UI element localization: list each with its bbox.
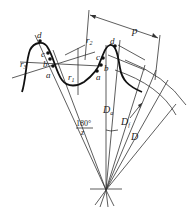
label-pitch: p bbox=[131, 24, 138, 36]
label-d-left: d bbox=[37, 30, 42, 40]
label-a-right: a bbox=[96, 72, 101, 82]
label-D: D bbox=[130, 131, 139, 142]
pitch-arc bbox=[125, 60, 186, 105]
label-r2: r2 bbox=[86, 35, 93, 46]
gear-tooth-diagram: p d c b a d c b a r1 r2 r3 180° z Da Df … bbox=[0, 0, 192, 212]
construction-lines bbox=[12, 45, 145, 95]
label-angle-numerator: 180° bbox=[76, 119, 91, 128]
label-d-right: d bbox=[110, 36, 115, 46]
label-r1: r1 bbox=[68, 72, 75, 83]
label-c-right: c bbox=[96, 52, 100, 62]
label-c-left: c bbox=[41, 49, 45, 59]
label-b-left: b bbox=[43, 59, 48, 69]
label-b-right: b bbox=[104, 63, 109, 73]
label-a-left: a bbox=[46, 70, 51, 80]
tooth-profile bbox=[22, 43, 142, 92]
label-r3: r3 bbox=[20, 59, 27, 70]
radial-lines bbox=[35, 35, 176, 207]
root-arc bbox=[115, 70, 176, 115]
label-Df: Df bbox=[120, 116, 131, 128]
label-Da: Da bbox=[102, 104, 113, 116]
